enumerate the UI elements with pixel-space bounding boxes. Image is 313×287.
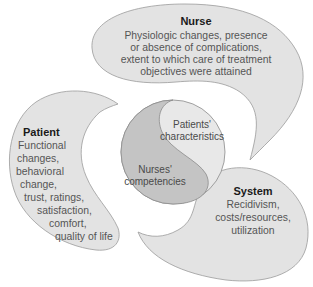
patient-line: quality of life [55,231,113,242]
patient-line: change, [20,179,57,190]
patients-characteristics-line: Patients' [173,119,211,130]
nurses-competencies-line: Nurses' [138,164,172,175]
patient-line: changes, [17,153,59,164]
system-line: costs/resources, [215,212,291,223]
patient-line: satisfaction, [37,205,92,216]
nurse-line: objectives were attained [140,66,252,77]
nurses-competencies-line: competencies [124,176,186,187]
nurse-title: Nurse [180,15,211,27]
patient-line: comfort, [49,218,87,229]
nurse-line: Physiologic changes, presence [124,30,267,41]
outcomes-diagram: Nurse Physiologic changes, presence or a… [0,0,313,287]
patient-title: Patient [23,126,60,138]
patient-line: Functional [18,140,66,151]
system-line: utilization [231,225,275,236]
system-line: Recidivism, [226,199,279,210]
patient-line: trust, ratings, [24,192,84,203]
nurse-line: or absence of complications, [130,42,262,53]
patients-characteristics-line: characteristics [160,131,224,142]
nurse-line: extent to which care of treatment [121,54,272,65]
system-title: System [233,185,272,197]
patient-line: behavioral [16,166,64,177]
